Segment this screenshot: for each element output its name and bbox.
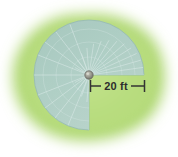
figure-canvas: 20 ft — [0, 0, 178, 157]
dimension-label: 20 ft — [104, 80, 128, 92]
sprinkler-figure: 20 ft — [0, 0, 178, 157]
sprinkler-head — [85, 71, 93, 79]
sprinkler-head-dot — [85, 71, 93, 79]
sprinkler-head-highlight — [86, 72, 89, 75]
